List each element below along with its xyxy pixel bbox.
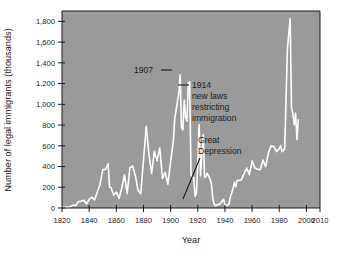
chart-canvas: 02004006008001,0001,2001,4001,6001,800 1… — [0, 0, 344, 254]
y-tick-label: 1,000 — [36, 100, 55, 109]
x-tick-label: 1860 — [108, 216, 125, 225]
x-tick-label: 1900 — [162, 216, 179, 225]
annotation-1914-line-1: 1914 — [192, 80, 211, 90]
y-tick-label: 1,600 — [36, 38, 55, 47]
y-tick-label: 400 — [42, 162, 55, 171]
immigration-chart-figure: 02004006008001,0001,2001,4001,6001,800 1… — [0, 0, 344, 254]
x-axis-title: Year — [182, 235, 201, 245]
x-tick-label: 1880 — [135, 216, 152, 225]
annotation-great-depression-line-1: Great — [198, 135, 220, 145]
annotation-great-depression-line-2: Depression — [198, 146, 242, 156]
y-tick-label: 1,800 — [36, 17, 55, 26]
x-tick-label: 2010 — [312, 216, 329, 225]
annotation-1907-label: 1907 — [134, 65, 153, 75]
y-tick-label: 600 — [42, 142, 55, 151]
y-tick-label: 200 — [42, 183, 55, 192]
annotation-1914-line-4: immigration — [192, 113, 237, 123]
x-tick-label: 1960 — [244, 216, 261, 225]
x-tick-label: 1820 — [54, 216, 71, 225]
y-axis-title: Number of legal immigrants (thousands) — [3, 28, 13, 191]
x-tick-label: 1920 — [189, 216, 206, 225]
y-tick-label: 0 — [51, 204, 55, 213]
y-tick-label: 1,400 — [36, 59, 55, 68]
y-axis-ticks: 02004006008001,0001,2001,4001,6001,800 — [36, 17, 65, 213]
x-tick-label: 1940 — [216, 216, 233, 225]
y-tick-label: 1,200 — [36, 79, 55, 88]
y-tick-label: 800 — [42, 121, 55, 130]
annotation-1914-line-2: new laws — [192, 91, 227, 101]
annotation-1914-line-3: restricting — [192, 102, 229, 112]
x-tick-label: 1980 — [271, 216, 288, 225]
x-tick-label: 1840 — [81, 216, 98, 225]
